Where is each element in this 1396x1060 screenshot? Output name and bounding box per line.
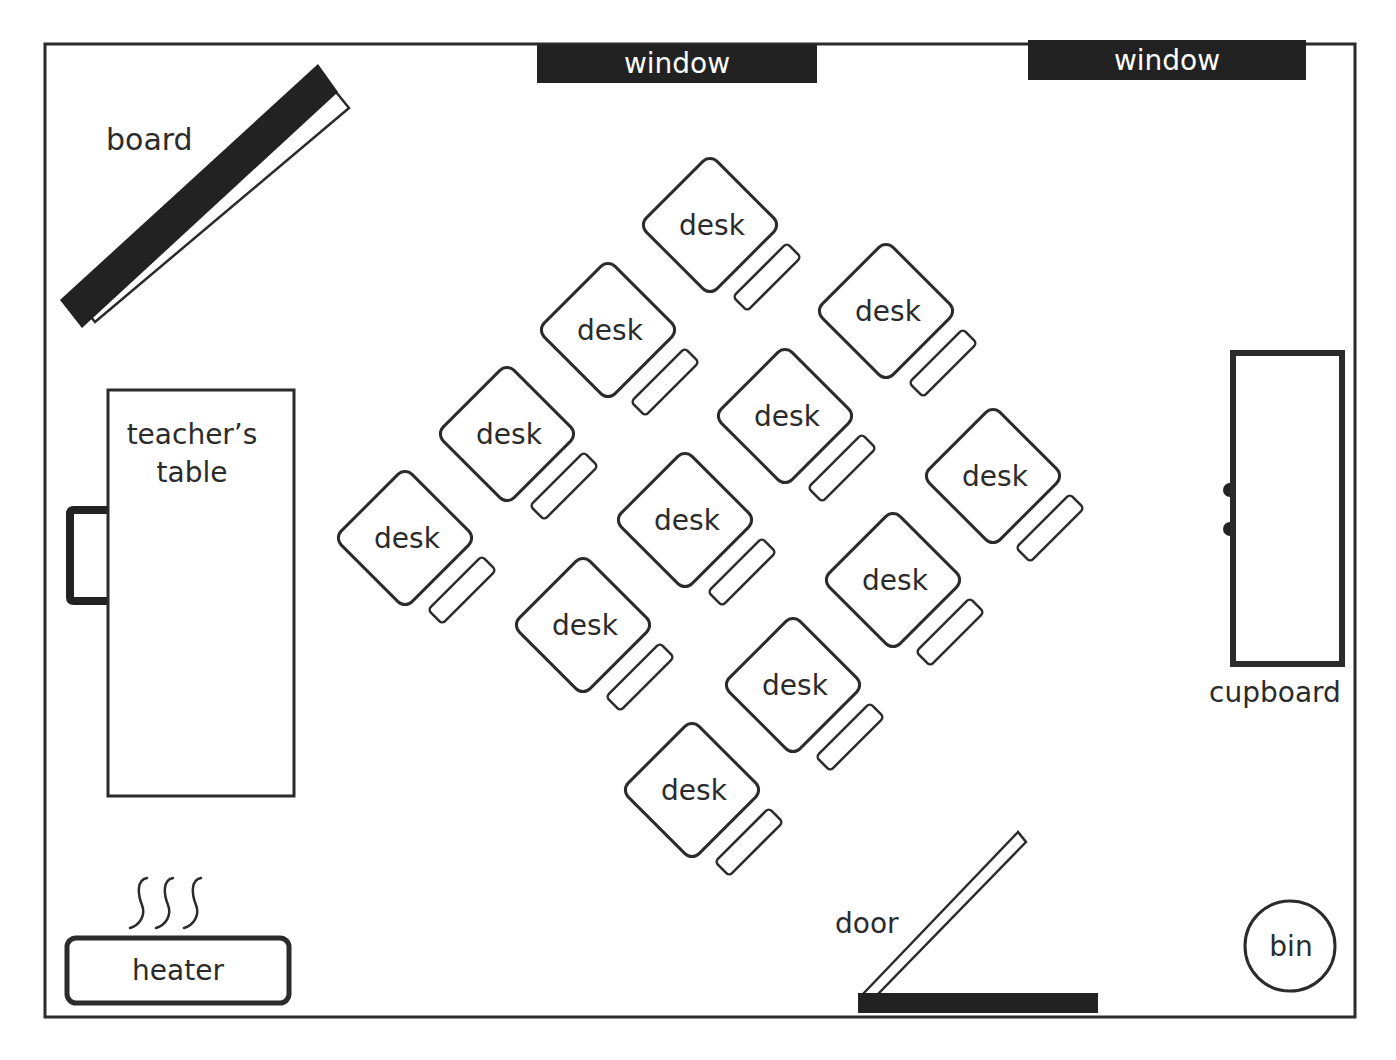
door: door bbox=[835, 832, 1098, 1013]
board-label: board bbox=[106, 122, 193, 157]
desk: desk bbox=[722, 614, 884, 771]
teachers-table-label-1: teacher’s bbox=[127, 418, 258, 451]
desk-label: desk bbox=[855, 295, 922, 328]
desk-label: desk bbox=[476, 418, 543, 451]
desk: desk bbox=[621, 719, 783, 876]
cupboard-label: cupboard bbox=[1209, 676, 1341, 709]
desk-label: desk bbox=[577, 314, 644, 347]
desk: desk bbox=[822, 509, 984, 666]
classroom-plan: window window board teacher’s table heat… bbox=[0, 0, 1396, 1060]
bin-label: bin bbox=[1269, 930, 1312, 963]
desk-label: desk bbox=[654, 504, 721, 537]
desk: desk bbox=[614, 449, 776, 606]
desk-label: desk bbox=[552, 609, 619, 642]
board: board bbox=[60, 64, 349, 328]
desk: desk bbox=[537, 259, 699, 416]
desk-label: desk bbox=[754, 400, 821, 433]
window-right: window bbox=[1028, 40, 1306, 80]
desk-label: desk bbox=[762, 669, 829, 702]
window-left-label: window bbox=[624, 47, 730, 80]
desk: desk bbox=[922, 405, 1084, 562]
teachers-table: teacher’s table bbox=[70, 390, 294, 796]
desk: desk bbox=[334, 467, 496, 624]
desk: desk bbox=[639, 154, 801, 311]
desk-label: desk bbox=[962, 460, 1029, 493]
desk: desk bbox=[714, 345, 876, 502]
heat-waves-icon bbox=[130, 878, 201, 928]
desks-group: deskdeskdeskdeskdeskdeskdeskdeskdeskdesk… bbox=[334, 154, 1084, 876]
desk-label: desk bbox=[661, 774, 728, 807]
desk-label: desk bbox=[679, 209, 746, 242]
desk: desk bbox=[436, 363, 598, 520]
heater: heater bbox=[67, 878, 289, 1003]
teachers-table-label-2: table bbox=[157, 456, 228, 489]
cupboard: cupboard bbox=[1209, 353, 1342, 709]
window-right-label: window bbox=[1114, 44, 1220, 77]
heater-label: heater bbox=[132, 954, 224, 987]
desk: desk bbox=[512, 554, 674, 711]
door-label: door bbox=[835, 907, 899, 940]
desk-label: desk bbox=[862, 564, 929, 597]
bin: bin bbox=[1245, 901, 1335, 991]
desk-label: desk bbox=[374, 522, 441, 555]
window-left: window bbox=[537, 45, 817, 83]
desk: desk bbox=[815, 240, 977, 397]
